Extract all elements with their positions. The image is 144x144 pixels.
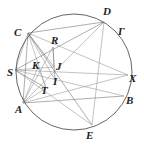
point-label-S: S <box>7 66 13 78</box>
segment-EC <box>28 33 92 125</box>
point-label-T: T <box>41 84 49 96</box>
segment-CD <box>28 22 104 33</box>
geometry-diagram: CDXBEASRKJIT Γ <box>0 0 144 144</box>
point-label-D: D <box>102 5 111 17</box>
circle-label-gamma: Γ <box>117 25 125 37</box>
point-label-E: E <box>85 129 93 141</box>
point-label-A: A <box>14 103 22 115</box>
point-label-B: B <box>125 94 133 106</box>
segment-AB <box>23 96 124 103</box>
point-label-K: K <box>31 59 40 71</box>
point-label-I: I <box>52 75 58 87</box>
segment-AR <box>23 47 53 103</box>
point-label-C: C <box>14 26 22 38</box>
segment-CX <box>28 33 128 75</box>
line-segments <box>15 22 128 125</box>
circle-gamma <box>16 14 132 130</box>
segment-AX <box>23 75 128 103</box>
point-label-X: X <box>128 72 137 84</box>
point-label-J: J <box>55 60 62 72</box>
point-label-R: R <box>50 34 58 46</box>
